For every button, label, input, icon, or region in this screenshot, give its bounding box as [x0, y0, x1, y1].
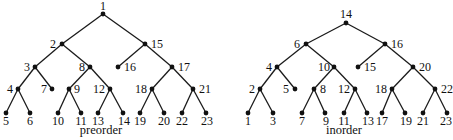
- tree-node-dot: [433, 87, 438, 92]
- tree-edge: [182, 89, 193, 113]
- tree-edge: [62, 44, 90, 67]
- tree-node-label: 5: [3, 114, 9, 128]
- tree-node-label: 23: [440, 114, 452, 128]
- tree-caption: inorder: [326, 123, 363, 137]
- tree-node-label: 14: [340, 7, 352, 21]
- tree-node-label: 16: [124, 60, 136, 74]
- tree-node-label: 16: [391, 37, 403, 51]
- tree-node-label: 15: [151, 37, 163, 51]
- tree-edges: [6, 14, 206, 113]
- tree-edge: [18, 89, 30, 113]
- tree-node-label: 21: [199, 82, 211, 96]
- tree-node-label: 18: [375, 82, 387, 96]
- tree-node-label: 23: [201, 114, 213, 128]
- tree-node-dot: [143, 42, 148, 47]
- tree-node-label: 19: [400, 114, 412, 128]
- tree-caption: preorder: [80, 123, 123, 137]
- tree-node-label: 10: [318, 60, 330, 74]
- tree-node-label: 17: [376, 114, 388, 128]
- tree-edge: [62, 14, 103, 44]
- tree-edge: [103, 14, 145, 44]
- tree-node-dot: [116, 65, 121, 70]
- tree-node-label: 6: [294, 37, 300, 51]
- tree-node-dot: [150, 87, 155, 92]
- tree-node-dot: [356, 65, 361, 70]
- tree-node-dot: [50, 87, 55, 92]
- tree-node-label: 5: [283, 82, 289, 96]
- tree-edge: [392, 89, 405, 113]
- tree-edge: [152, 89, 164, 113]
- tree-edge: [152, 67, 172, 89]
- tree-node-label: 12: [93, 82, 105, 96]
- tree-node-label: 20: [419, 60, 431, 74]
- inorder-tree: 1461641015202581218221379111317192123 in…: [245, 7, 453, 137]
- tree-node-dot: [411, 65, 416, 70]
- tree-edge: [346, 23, 385, 44]
- tree-node-dot: [60, 42, 65, 47]
- tree-edge: [423, 89, 435, 113]
- tree-node-label: 10: [52, 114, 64, 128]
- tree-node-dot: [88, 65, 93, 70]
- tree-edge: [110, 89, 123, 113]
- tree-edge: [260, 89, 273, 113]
- preorder-tree: 1215381617479121821561011131419202223 pr…: [3, 0, 213, 137]
- tree-node-label: 12: [338, 82, 350, 96]
- tree-node-dot: [33, 65, 38, 70]
- tree-node-label: 17: [178, 60, 190, 74]
- tree-node-dot: [108, 87, 113, 92]
- tree-node-label: 7: [41, 82, 47, 96]
- tree-node-label: 7: [299, 114, 305, 128]
- tree-node-dot: [275, 65, 280, 70]
- tree-node-label: 1: [100, 0, 106, 13]
- tree-node-dot: [312, 87, 317, 92]
- tree-node-label: 9: [74, 82, 80, 96]
- tree-edge: [58, 89, 69, 113]
- tree-node-dot: [293, 87, 298, 92]
- tree-node-label: 13: [362, 114, 374, 128]
- tree-node-dot: [332, 65, 337, 70]
- tree-node-label: 4: [266, 60, 272, 74]
- tree-node-label: 1: [245, 114, 251, 128]
- tree-node-dot: [353, 87, 358, 92]
- binary-trees-diagram: 1215381617479121821561011131419202223 pr…: [0, 0, 453, 140]
- tree-node-dot: [170, 65, 175, 70]
- tree-node-label: 4: [7, 82, 13, 96]
- tree-node-dot: [191, 87, 196, 92]
- tree-node-label: 19: [134, 114, 146, 128]
- tree-node-label: 21: [417, 114, 429, 128]
- tree-node-label: 18: [135, 82, 147, 96]
- tree-node-label: 22: [176, 114, 188, 128]
- tree-node-dot: [258, 87, 263, 92]
- tree-node-label: 8: [320, 82, 326, 96]
- tree-node-label: 3: [24, 60, 30, 74]
- tree-edge: [35, 44, 62, 67]
- tree-node-label: 15: [364, 60, 376, 74]
- tree-node-label: 20: [158, 114, 170, 128]
- tree-node-dot: [344, 21, 349, 26]
- tree-node-dot: [67, 87, 72, 92]
- tree-edge: [392, 67, 413, 89]
- tree-edge: [355, 89, 367, 113]
- tree-node-label: 22: [441, 82, 453, 96]
- tree-node-label: 6: [27, 114, 33, 128]
- tree-node-label: 3: [270, 114, 276, 128]
- tree-edge: [277, 44, 306, 67]
- tree-node-label: 2: [50, 37, 56, 51]
- tree-edge: [306, 23, 346, 44]
- tree-edge: [302, 89, 314, 113]
- tree-node-label: 8: [79, 60, 85, 74]
- tree-nodes: 1215381617479121821561011131419202223: [3, 0, 213, 128]
- tree-node-label: 2: [249, 82, 255, 96]
- tree-node-dot: [304, 42, 309, 47]
- tree-node-dot: [390, 87, 395, 92]
- tree-node-dot: [383, 42, 388, 47]
- tree-node-dot: [16, 87, 21, 92]
